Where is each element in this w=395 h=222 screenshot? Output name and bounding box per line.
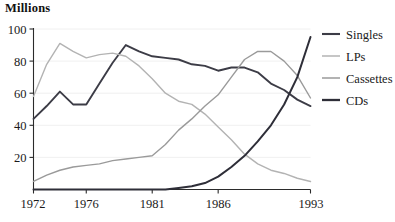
legend-label-cds: CDs xyxy=(346,94,368,108)
chart-legend: SinglesLPsCassettesCDs xyxy=(322,28,393,108)
series-line-singles xyxy=(34,45,311,119)
legend-label-cassettes: Cassettes xyxy=(346,72,393,86)
x-tick-label: 1993 xyxy=(299,197,324,211)
y-tick-label: 60 xyxy=(14,87,27,101)
y-tick-label: 20 xyxy=(14,151,27,165)
legend-label-singles: Singles xyxy=(346,28,383,42)
x-tick-label: 1972 xyxy=(21,197,46,211)
y-tick-label: 100 xyxy=(8,23,27,37)
x-tick-label: 1976 xyxy=(74,197,99,211)
x-axis-ticks: 19721976198119861993 xyxy=(21,190,324,211)
series-line-cassettes xyxy=(34,51,311,181)
legend-label-lps: LPs xyxy=(346,50,366,64)
chart-container: Millions 20406080100 1972197619811986199… xyxy=(0,0,395,222)
line-chart-plot: 20406080100 19721976198119861993 Singles… xyxy=(0,0,395,222)
x-tick-label: 1981 xyxy=(140,197,165,211)
data-series xyxy=(34,37,311,189)
x-tick-label: 1986 xyxy=(206,197,231,211)
series-line-lps xyxy=(34,43,311,181)
y-axis-ticks: 20406080100 xyxy=(8,23,34,165)
y-tick-label: 40 xyxy=(14,119,27,133)
y-tick-label: 80 xyxy=(14,55,27,69)
